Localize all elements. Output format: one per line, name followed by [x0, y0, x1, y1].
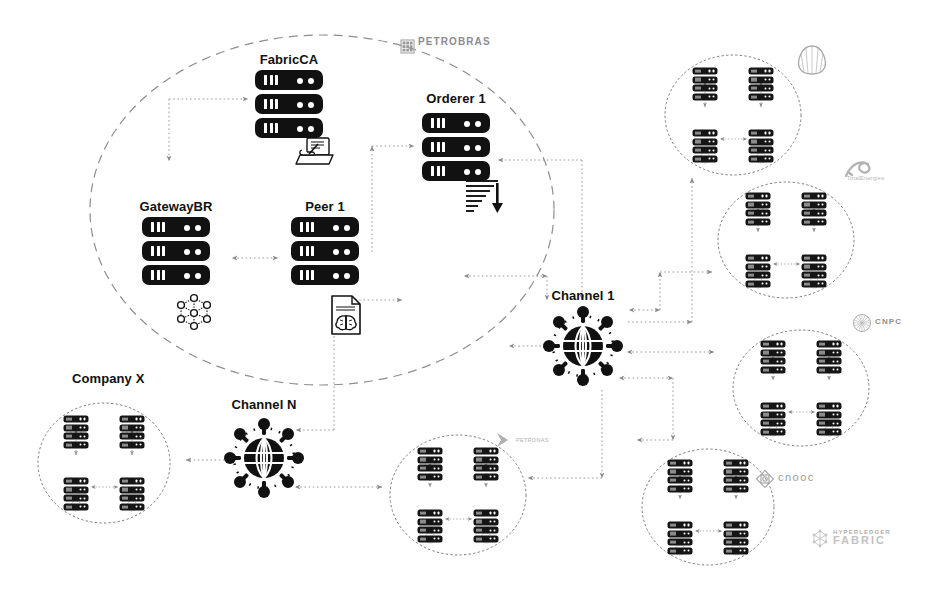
mini-server-unit: [802, 201, 827, 208]
org-peer-stack[interactable]: [474, 448, 499, 481]
org-peer-stack[interactable]: [693, 68, 718, 101]
mini-server-unit: [761, 358, 786, 365]
org-peer-stack[interactable]: [761, 341, 786, 374]
mini-server-bars: [477, 520, 482, 523]
mini-server-leds: [818, 257, 824, 259]
org-circle-company-x: [38, 403, 170, 523]
mini-server-bars: [123, 426, 128, 429]
server-leds: [297, 126, 314, 132]
mini-server-leds: [709, 70, 715, 72]
mini-server-leds: [765, 149, 771, 151]
mini-server-unit: [693, 68, 718, 75]
mini-server-unit: [817, 366, 842, 373]
server-bars: [151, 246, 165, 256]
mini-server-bars: [727, 549, 732, 552]
mini-server-unit: [746, 193, 771, 200]
server-unit: [291, 217, 359, 237]
server-stack-peer-1[interactable]: [291, 217, 359, 285]
mini-server-bars: [749, 256, 754, 259]
mini-server-unit: [802, 272, 827, 279]
mini-server-unit: [749, 76, 774, 83]
org-peer-stack[interactable]: [724, 460, 749, 493]
mini-server-bars: [421, 511, 426, 514]
mini-server-bars: [477, 511, 482, 514]
certificate-sign-icon: [296, 138, 333, 164]
mini-server-leds: [833, 352, 839, 354]
mini-server-bars: [67, 497, 72, 500]
mini-server-bars: [764, 342, 769, 345]
mini-server-unit: [418, 473, 443, 480]
mini-server-leds: [740, 479, 746, 481]
mini-server-bars: [671, 479, 676, 482]
mini-server-bars: [123, 417, 128, 420]
org-peer-stack[interactable]: [64, 416, 89, 449]
org-peer-stack[interactable]: [817, 403, 842, 436]
mini-server-bars: [696, 140, 701, 143]
server-unit: [255, 94, 323, 114]
org-peer-stack[interactable]: [64, 478, 89, 511]
mini-server-bars: [805, 265, 810, 268]
org-peer-stack[interactable]: [668, 460, 693, 493]
mini-server-unit: [693, 85, 718, 92]
org-peer-stack[interactable]: [724, 522, 749, 555]
mini-server-bars: [764, 430, 769, 433]
mini-server-leds: [80, 489, 86, 491]
org-peer-stack[interactable]: [474, 510, 499, 543]
org-peer-stack[interactable]: [749, 130, 774, 163]
mini-server-unit: [746, 201, 771, 208]
mini-server-bars: [764, 404, 769, 407]
org-peer-stack[interactable]: [120, 478, 145, 511]
mini-server-bars: [727, 479, 732, 482]
mini-server-leds: [818, 283, 824, 285]
mini-server-leds: [684, 541, 690, 543]
org-peer-stack[interactable]: [749, 68, 774, 101]
org-peer-stack[interactable]: [120, 416, 145, 449]
mini-server-leds: [434, 467, 440, 469]
server-unit: [255, 70, 323, 90]
mini-server-unit: [724, 468, 749, 475]
mini-server-leds: [490, 459, 496, 461]
mini-server-bars: [727, 541, 732, 544]
org-peer-stack[interactable]: [418, 448, 443, 481]
mini-server-bars: [696, 78, 701, 81]
mini-server-leds: [80, 435, 86, 437]
mini-server-leds: [833, 343, 839, 345]
mini-server-unit: [761, 420, 786, 427]
mini-server-leds: [709, 79, 715, 81]
mini-server-leds: [833, 422, 839, 424]
channel-1-hub-icon: [543, 306, 623, 386]
mini-server-unit: [474, 518, 499, 525]
petrobras-grid-logo: [401, 40, 414, 53]
server-stack-orderer-1[interactable]: [422, 113, 490, 181]
mini-server-unit: [817, 358, 842, 365]
org-peer-stack[interactable]: [668, 522, 693, 555]
brand-label-petrobras: PETROBRAS: [418, 36, 491, 47]
mini-server-leds: [490, 467, 496, 469]
mini-server-leds: [762, 274, 768, 276]
org-peer-stack[interactable]: [693, 130, 718, 163]
server-bars: [264, 75, 278, 85]
server-stack-fabric-ca[interactable]: [255, 70, 323, 138]
mini-server-bars: [727, 461, 732, 464]
server-leds: [464, 145, 481, 151]
mini-server-leds: [818, 221, 824, 223]
mini-server-bars: [67, 479, 72, 482]
mini-server-unit: [724, 460, 749, 467]
mini-server-leds: [833, 414, 839, 416]
org-peer-stack[interactable]: [802, 193, 827, 226]
server-stack-gateway-br[interactable]: [142, 217, 210, 285]
mini-server-leds: [833, 360, 839, 362]
org-peer-stack[interactable]: [418, 510, 443, 543]
brand-label-cnpc: CNPC: [875, 317, 902, 326]
mini-server-bars: [820, 342, 825, 345]
org-peer-stack[interactable]: [746, 255, 771, 288]
mini-server-unit: [120, 495, 145, 502]
mini-server-leds: [136, 489, 142, 491]
org-peer-stack[interactable]: [761, 403, 786, 436]
org-peer-stack[interactable]: [817, 341, 842, 374]
mini-server-leds: [765, 132, 771, 134]
mini-server-leds: [709, 96, 715, 98]
org-peer-stack[interactable]: [802, 255, 827, 288]
org-peer-stack[interactable]: [746, 193, 771, 226]
server-unit: [142, 265, 210, 285]
